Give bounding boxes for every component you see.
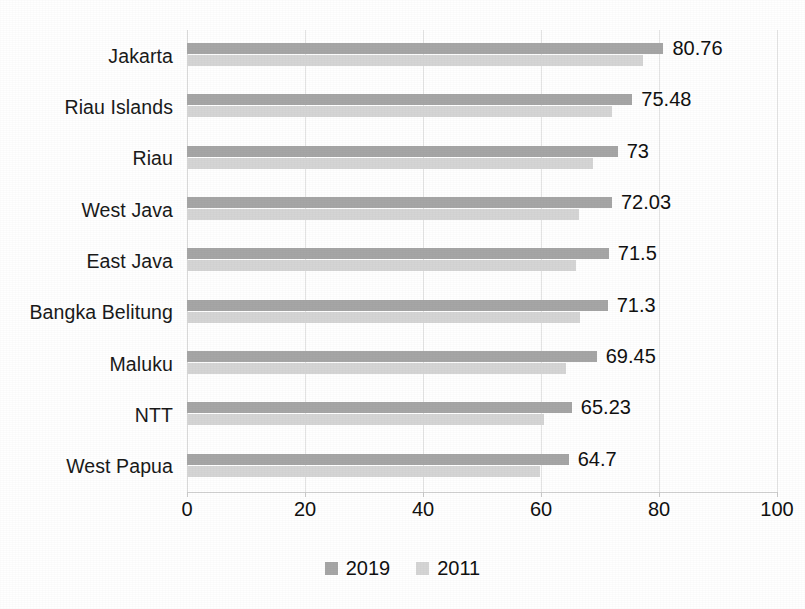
category-label: West Java bbox=[81, 198, 173, 221]
category-label: Riau bbox=[132, 147, 173, 170]
bar-2019 bbox=[187, 248, 609, 259]
data-label: 73 bbox=[627, 141, 649, 162]
data-label: 80.76 bbox=[672, 38, 722, 59]
x-tick-label: 60 bbox=[530, 498, 552, 521]
data-label: 72.03 bbox=[621, 192, 671, 213]
data-label: 69.45 bbox=[606, 346, 656, 367]
legend-item[interactable]: 2019 bbox=[325, 558, 391, 578]
bar-2011 bbox=[187, 158, 593, 169]
bar-2011 bbox=[187, 312, 580, 323]
category-label: NTT bbox=[135, 403, 173, 426]
data-label: 64.7 bbox=[578, 449, 617, 470]
bar-2011 bbox=[187, 209, 579, 220]
data-label: 75.48 bbox=[641, 89, 691, 110]
legend-label: 2011 bbox=[437, 558, 480, 578]
x-tick-label: 0 bbox=[181, 498, 192, 521]
tick-mark bbox=[659, 492, 660, 497]
tick-mark bbox=[187, 492, 188, 497]
bar-group: West Papua64.7 bbox=[187, 441, 777, 492]
plot-area: Jakarta80.76Riau Islands75.48Riau73West … bbox=[187, 30, 777, 492]
legend-swatch-icon bbox=[325, 562, 338, 575]
bar-2019 bbox=[187, 454, 569, 465]
bar-2011 bbox=[187, 106, 612, 117]
legend-item[interactable]: 2011 bbox=[416, 558, 480, 578]
bar-group: Riau73 bbox=[187, 133, 777, 184]
bar-group: West Java72.03 bbox=[187, 184, 777, 235]
x-axis-line bbox=[187, 492, 778, 493]
bar-2011 bbox=[187, 55, 643, 66]
category-label: Jakarta bbox=[108, 44, 173, 67]
category-label: Maluku bbox=[110, 352, 173, 375]
bar-group: Riau Islands75.48 bbox=[187, 81, 777, 132]
bar-2011 bbox=[187, 363, 566, 374]
bar-2019 bbox=[187, 351, 597, 362]
bar-2019 bbox=[187, 43, 663, 54]
data-label: 65.23 bbox=[581, 397, 631, 418]
legend-label: 2019 bbox=[346, 558, 391, 578]
legend-swatch-icon bbox=[416, 562, 429, 575]
tick-mark bbox=[777, 492, 778, 497]
category-label: Bangka Belitung bbox=[29, 301, 173, 324]
data-label: 71.3 bbox=[617, 295, 656, 316]
x-tick-label: 40 bbox=[412, 498, 434, 521]
bar-group: Maluku69.45 bbox=[187, 338, 777, 389]
chart-legend: 20192011 bbox=[0, 558, 805, 578]
bar-2019 bbox=[187, 197, 612, 208]
tick-mark bbox=[305, 492, 306, 497]
bar-2011 bbox=[187, 414, 544, 425]
data-label: 71.5 bbox=[618, 243, 657, 264]
bar-2011 bbox=[187, 260, 576, 271]
category-label: Riau Islands bbox=[64, 95, 173, 118]
bar-2019 bbox=[187, 146, 618, 157]
bar-2019 bbox=[187, 94, 632, 105]
bar-group: NTT65.23 bbox=[187, 389, 777, 440]
tick-mark bbox=[423, 492, 424, 497]
tick-mark bbox=[541, 492, 542, 497]
category-label: East Java bbox=[86, 249, 173, 272]
x-tick-label: 100 bbox=[760, 498, 793, 521]
bar-2019 bbox=[187, 300, 608, 311]
bar-2019 bbox=[187, 402, 572, 413]
gridline bbox=[777, 30, 778, 492]
category-label: West Papua bbox=[66, 455, 173, 478]
bar-2011 bbox=[187, 466, 540, 477]
bar-group: Bangka Belitung71.3 bbox=[187, 287, 777, 338]
bar-group: Jakarta80.76 bbox=[187, 30, 777, 81]
bar-chart: Jakarta80.76Riau Islands75.48Riau73West … bbox=[0, 0, 805, 609]
bar-group: East Java71.5 bbox=[187, 235, 777, 286]
x-tick-label: 20 bbox=[294, 498, 316, 521]
x-tick-label: 80 bbox=[648, 498, 670, 521]
